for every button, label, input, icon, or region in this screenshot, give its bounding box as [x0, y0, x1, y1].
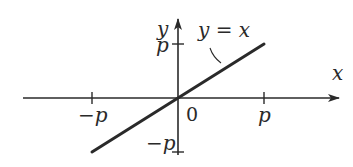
y-tick-label-neg-p: −p	[146, 131, 176, 155]
curve-label: y = x	[197, 18, 250, 42]
x-tick-label-neg-p: −p	[78, 103, 108, 127]
y-tick-label-p: p	[156, 33, 169, 57]
x-axis-label: x	[332, 61, 343, 85]
origin-label: 0	[186, 103, 198, 125]
annotation-pointer	[210, 48, 221, 63]
x-tick-label-p: p	[258, 103, 271, 127]
diagram-canvas: x y y = x 0 −p p p −p	[0, 0, 353, 167]
